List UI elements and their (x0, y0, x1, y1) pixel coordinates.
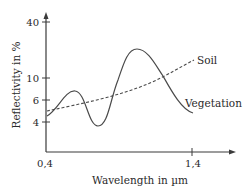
y-axis-arrow-icon (44, 12, 49, 19)
y-tick-label-10: 10 (26, 73, 39, 84)
x-tick-label-0-4: 0,4 (37, 158, 53, 169)
reflectivity-chart: 40 10 6 4 0,4 1,4 Wavelength in µm Refle… (0, 0, 245, 193)
vegetation-label: Vegetation (184, 97, 242, 109)
vegetation-series-line (47, 49, 193, 126)
y-tick-label-4: 4 (33, 117, 39, 128)
x-axis-label: Wavelength in µm (92, 174, 188, 186)
y-tick-label-6: 6 (33, 95, 39, 106)
y-axis-label: Reflectivity in % (10, 41, 22, 128)
soil-label: Soil (197, 54, 218, 66)
soil-series-line (47, 60, 194, 111)
y-tick-label-40: 40 (26, 17, 39, 28)
x-tick-label-1-4: 1,4 (185, 158, 201, 169)
x-axis-arrow-icon (229, 150, 236, 155)
